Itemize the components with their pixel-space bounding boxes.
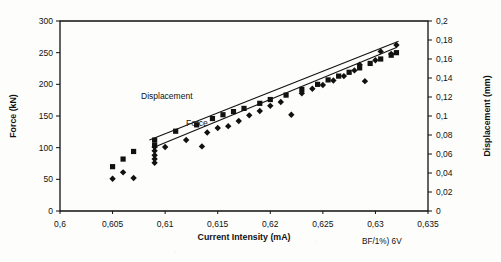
x-axis-title: Current Intensity (mA)	[198, 232, 291, 242]
series-inline-label-force: Force	[186, 118, 208, 128]
data-point-square	[368, 61, 373, 66]
y2-tick-label: 0,08	[436, 130, 453, 140]
data-point-diamond	[330, 77, 336, 83]
y-tick-label: 250	[39, 48, 53, 58]
y-tick-label: 50	[44, 174, 54, 184]
data-point-square	[326, 77, 331, 82]
y2-tick-label: 0,16	[436, 54, 453, 64]
y-tick-label: 300	[39, 16, 53, 26]
data-point-square	[131, 149, 136, 154]
axes-group: 0,60,6050,610,6150,620,6250,630,63505010…	[39, 16, 453, 229]
data-point-square	[173, 129, 178, 134]
data-point-diamond	[236, 118, 242, 124]
y-tick-label: 100	[39, 143, 53, 153]
data-point-diamond	[341, 73, 347, 79]
data-point-diamond	[120, 169, 126, 175]
x-tick-label: 0,605	[102, 219, 124, 229]
data-series-group	[109, 41, 399, 182]
data-point-square	[336, 74, 341, 79]
data-point-square	[210, 116, 215, 121]
y-tick-label: 0	[48, 206, 53, 216]
chart-figure: 0,60,6050,610,6150,620,6250,630,63505010…	[0, 0, 501, 262]
chart-annotation: BF/1%) 6V	[362, 237, 402, 246]
data-point-diamond	[215, 125, 221, 131]
y2-tick-label: 0,12	[436, 92, 453, 102]
data-point-diamond	[199, 143, 205, 149]
y2-tick-label: 0,02	[436, 187, 453, 197]
y2-tick-label: 0	[436, 206, 441, 216]
scatter-plot-canvas: 0,60,6050,610,6150,620,6250,630,63505010…	[0, 0, 501, 262]
data-point-square	[231, 109, 236, 114]
data-point-square	[268, 97, 273, 102]
data-point-square	[394, 50, 399, 55]
data-point-diamond	[183, 137, 189, 143]
data-point-square	[389, 53, 394, 58]
x-tick-label: 0,635	[417, 219, 439, 229]
y2-tick-label: 0,14	[436, 73, 453, 83]
data-point-diamond	[320, 82, 326, 88]
data-point-square	[110, 164, 115, 169]
data-point-diamond	[225, 123, 231, 129]
data-point-diamond	[351, 67, 357, 73]
data-point-square	[283, 93, 288, 98]
x-tick-label: 0,6	[54, 219, 66, 229]
y-tick-label: 150	[39, 111, 53, 121]
data-point-diamond	[362, 78, 368, 84]
data-point-diamond	[130, 175, 136, 181]
data-point-square	[152, 137, 157, 142]
y2-axis-title: Displacement (mm)	[482, 75, 492, 156]
x-tick-label: 0,61	[157, 219, 174, 229]
y2-tick-label: 0,1	[436, 111, 448, 121]
data-point-diamond	[246, 112, 252, 118]
data-point-diamond	[309, 86, 315, 92]
y-axis-title: Force (kN)	[8, 94, 18, 138]
x-tick-label: 0,62	[262, 219, 279, 229]
data-point-diamond	[278, 99, 284, 105]
x-tick-label: 0,63	[367, 219, 384, 229]
data-point-square	[120, 156, 125, 161]
data-point-square	[315, 82, 320, 87]
data-point-diamond	[162, 144, 168, 150]
data-point-diamond	[109, 176, 115, 182]
data-point-square	[357, 65, 362, 70]
y2-tick-label: 0,2	[436, 16, 448, 26]
y2-tick-label: 0,06	[436, 149, 453, 159]
data-point-diamond	[288, 112, 294, 118]
series-force	[109, 42, 399, 182]
x-tick-label: 0,625	[312, 219, 334, 229]
data-point-square	[220, 112, 225, 117]
data-point-square	[257, 101, 262, 106]
data-point-square	[347, 70, 352, 75]
series-inline-label-displacement: Displacement	[141, 91, 193, 101]
data-point-square	[152, 143, 157, 148]
data-point-square	[378, 56, 383, 61]
data-point-diamond	[204, 129, 210, 135]
data-point-diamond	[257, 108, 263, 114]
y-tick-label: 200	[39, 79, 53, 89]
data-point-diamond	[372, 57, 378, 63]
data-point-square	[299, 87, 304, 92]
x-tick-label: 0,615	[207, 219, 229, 229]
data-point-diamond	[267, 103, 273, 109]
y2-tick-label: 0,04	[436, 168, 453, 178]
y2-tick-label: 0,18	[436, 35, 453, 45]
data-point-square	[241, 106, 246, 111]
